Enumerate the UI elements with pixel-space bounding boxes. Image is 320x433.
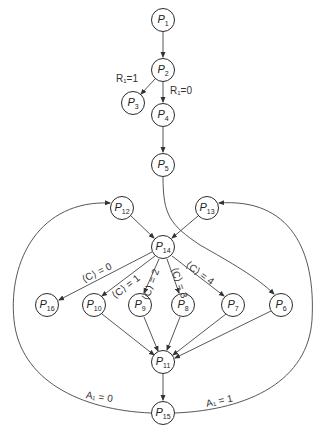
node-label: P14 (155, 241, 170, 254)
node-p14: P14 (151, 235, 175, 259)
node-label: P15 (155, 407, 170, 420)
node-label: P11 (156, 356, 171, 369)
node-p5: P5 (151, 153, 175, 177)
node-p7: P7 (221, 293, 245, 317)
edge-label-r1-eq-0: R₁=0 (170, 85, 192, 96)
node-p10: P10 (82, 293, 106, 317)
node-p4: P4 (151, 103, 175, 127)
edge-p10-p11 (102, 314, 154, 355)
edge-p9-p11 (144, 317, 158, 351)
node-p6: P6 (269, 293, 293, 317)
edge-p8-p11 (167, 317, 180, 350)
node-p3: P3 (121, 91, 145, 115)
node-p16: P16 (35, 293, 59, 317)
node-label: P16 (39, 299, 54, 312)
node-label: P3 (127, 97, 138, 110)
node-label: P12 (114, 202, 129, 215)
node-label: P6 (275, 299, 286, 312)
node-label: P7 (227, 299, 238, 312)
node-label: P5 (157, 159, 168, 172)
flow-diagram: P1 P2 P3 P4 P5 P12 P13 P14 P16 P10 P9 P8… (0, 0, 320, 433)
node-label: P10 (86, 299, 101, 312)
node-label: P13 (199, 202, 214, 215)
node-label: P4 (157, 109, 168, 122)
node-label: P8 (177, 299, 188, 312)
edge-p7-p11 (173, 314, 226, 355)
node-p12: P12 (110, 196, 134, 220)
node-label: P1 (157, 14, 168, 27)
edge-p12-p14 (131, 216, 154, 238)
node-label: P9 (134, 299, 145, 312)
node-p1: P1 (151, 8, 175, 32)
edge-p6-p11 (175, 311, 271, 358)
node-p15: P15 (151, 401, 175, 425)
edge-p13-p14 (172, 216, 198, 238)
node-p2: P2 (151, 58, 175, 82)
edge-label-r1-eq-1: R₁=1 (116, 73, 138, 84)
node-p13: P13 (195, 196, 219, 220)
node-label: P2 (157, 64, 168, 77)
edge-p2-p3 (141, 79, 155, 94)
node-p11: P11 (151, 350, 175, 374)
